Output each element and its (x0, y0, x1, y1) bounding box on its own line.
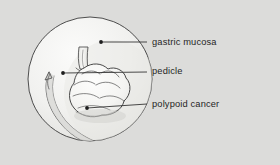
annotation-label-gastric-mucosa: gastric mucosa (152, 38, 217, 47)
anchor-dot-pedicle (61, 71, 65, 75)
annotation-label-polypoid-cancer: polypoid cancer (152, 100, 219, 109)
anchor-dot-polypoid-cancer (85, 106, 89, 110)
figure-panel: gastric mucosa pedicle polypoid cancer (0, 0, 280, 165)
anchor-dot-gastric-mucosa (99, 40, 103, 44)
mass-undershadow (74, 109, 126, 123)
illustration-canvas (0, 0, 280, 165)
annotation-label-pedicle: pedicle (152, 67, 183, 76)
